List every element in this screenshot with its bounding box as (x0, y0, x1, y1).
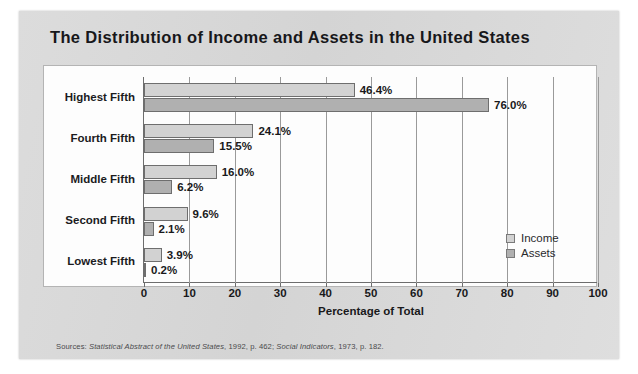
bar-value-label: 2.1% (159, 224, 185, 236)
category-label: Lowest Fifth (67, 256, 135, 268)
legend-label-income: Income (521, 233, 559, 245)
source-note: Sources: Statistical Abstract of the Uni… (56, 342, 384, 351)
source-suffix: , 1973, p. 182. (334, 342, 384, 351)
source-prefix: Sources: (56, 342, 89, 351)
bar-value-label: 24.1% (258, 126, 291, 138)
bar-income (144, 165, 217, 179)
x-tick-label: 30 (274, 288, 287, 300)
x-tick-label: 40 (319, 288, 332, 300)
bar-value-label: 46.4% (360, 85, 393, 97)
legend: Income Assets (506, 231, 580, 261)
bar-assets (144, 139, 214, 153)
source-work-2: Social Indicators (276, 342, 333, 351)
bar-value-label: 15.5% (219, 141, 252, 153)
x-axis-title: Percentage of Total (144, 305, 598, 317)
bar-value-label: 3.9% (167, 250, 193, 262)
category-label: Fourth Fifth (70, 133, 135, 145)
page-title: The Distribution of Income and Assets in… (50, 28, 590, 47)
legend-swatch-income-icon (506, 234, 515, 243)
x-tick-label: 10 (183, 288, 196, 300)
bar-value-label: 9.6% (193, 209, 219, 221)
bar-income (144, 124, 253, 138)
legend-item-assets: Assets (506, 246, 580, 261)
bar-value-label: 0.2% (151, 265, 177, 277)
bar-assets (144, 222, 154, 236)
x-tick-label: 20 (228, 288, 241, 300)
bar-value-label: 16.0% (222, 167, 255, 179)
x-tick-label: 50 (365, 288, 378, 300)
x-tick-label: 0 (141, 288, 147, 300)
bar-income (144, 207, 188, 221)
bar-income (144, 83, 355, 97)
x-tick-label: 70 (455, 288, 468, 300)
bar-value-label: 76.0% (494, 100, 527, 112)
x-tick-label: 60 (410, 288, 423, 300)
gridline (598, 77, 599, 283)
x-tick-label: 100 (588, 288, 607, 300)
category-label: Middle Fifth (70, 174, 135, 186)
category-row: Middle Fifth16.0%6.2% (144, 159, 598, 200)
x-tick-label: 80 (501, 288, 514, 300)
source-separator: , 1992, p. 462; (224, 342, 276, 351)
bar-income (144, 248, 162, 262)
category-row: Highest Fifth46.4%76.0% (144, 77, 598, 118)
category-label: Second Fifth (65, 215, 135, 227)
category-label: Highest Fifth (65, 92, 135, 104)
category-row: Fourth Fifth24.1%15.5% (144, 118, 598, 159)
legend-label-assets: Assets (521, 248, 556, 260)
legend-item-income: Income (506, 231, 580, 246)
chart-card: The Distribution of Income and Assets in… (19, 11, 619, 359)
bar-value-label: 6.2% (177, 182, 203, 194)
legend-swatch-assets-icon (506, 249, 515, 258)
chart-page: The Distribution of Income and Assets in… (0, 0, 638, 374)
source-work-1: Statistical Abstract of the United State… (89, 342, 224, 351)
bar-assets (144, 98, 489, 112)
bar-assets (144, 263, 146, 277)
bar-assets (144, 180, 172, 194)
x-tick-label: 90 (546, 288, 559, 300)
